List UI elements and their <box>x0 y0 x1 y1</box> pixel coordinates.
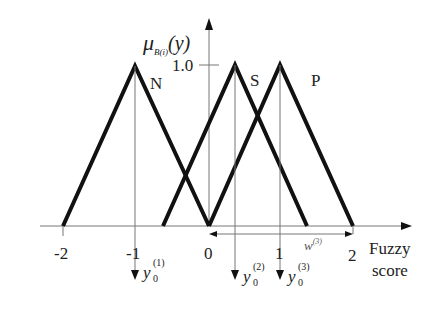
output-arrow-1-icon <box>131 270 139 280</box>
mu-symbol: μ <box>143 30 154 55</box>
output-sub-2: 0 <box>253 278 258 288</box>
output-arrow-2-icon <box>231 270 239 280</box>
y-tick-label: 1.0 <box>172 57 193 74</box>
output-symbol-2: y <box>243 267 251 286</box>
membership-N <box>63 66 209 226</box>
width-arrow-left-icon <box>209 231 217 237</box>
output-symbol-3: y <box>288 267 296 286</box>
output-label-2: y (2) 0 <box>243 268 251 285</box>
output-label-3: y (3) 0 <box>288 268 296 285</box>
membership-P <box>209 65 353 226</box>
y-label-subscript: B(i) <box>154 47 168 57</box>
set-label-N: N <box>150 75 162 92</box>
x-axis-label-line1: Fuzzy <box>369 240 411 257</box>
output-label-1: y (1) 0 <box>143 264 151 281</box>
x-tick-label-0: 0 <box>204 245 213 262</box>
x-axis-label-line2: score <box>372 262 408 279</box>
set-label-S: S <box>250 72 259 89</box>
output-sup-3: (3) <box>298 262 310 272</box>
output-sup-2: (2) <box>253 262 265 272</box>
output-symbol-1: y <box>143 263 151 282</box>
x-tick-label-2: 2 <box>348 247 357 264</box>
x-tick-label-1: 1 <box>275 245 284 262</box>
output-sub-1: 0 <box>153 274 158 284</box>
output-arrow-3-icon <box>276 270 284 280</box>
x-tick-label-minus1: -1 <box>126 245 140 262</box>
x-tick-label-minus2: -2 <box>54 245 68 262</box>
set-label-P: P <box>311 72 320 89</box>
y-axis-label: μB(i)(y) <box>143 32 190 54</box>
width-superscript: (3) <box>313 237 322 246</box>
y-label-argument: (y) <box>168 32 190 54</box>
x-axis-arrow-icon <box>401 222 412 230</box>
width-arrow-right-icon <box>345 231 353 237</box>
width-label: w(3) <box>304 239 322 252</box>
output-sup-1: (1) <box>153 258 165 268</box>
output-sub-3: 0 <box>298 278 303 288</box>
width-symbol: w <box>304 238 313 253</box>
y-axis-arrow-icon <box>205 18 213 30</box>
